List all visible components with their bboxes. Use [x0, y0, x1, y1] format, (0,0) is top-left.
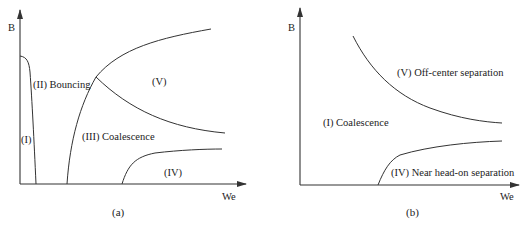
region-label: (IV) [164, 167, 183, 179]
panel-caption: (a) [112, 206, 125, 219]
region-label: (V) [152, 76, 167, 88]
panel-a: B We (I) (II) Bouncing (III) Coalescence… [8, 10, 246, 219]
boundary-i-ii [20, 56, 36, 184]
panel-caption: (b) [406, 206, 419, 219]
boundary-i-v [353, 36, 502, 123]
region-label: (II) Bouncing [33, 79, 91, 91]
x-axis-label: We [500, 191, 514, 202]
collision-regime-diagrams: B We (I) (II) Bouncing (III) Coalescence… [0, 0, 529, 232]
x-axis-label: We [222, 191, 236, 202]
boundary-ii-v [96, 29, 211, 77]
region-label: (I) Coalescence [323, 117, 389, 129]
region-label: (IV) Near head-on separation [391, 167, 515, 179]
region-label: (I) [21, 134, 32, 146]
y-axis-label: B [288, 22, 295, 33]
boundary-i-iv [378, 141, 502, 185]
region-label: (III) Coalescence [82, 131, 155, 143]
y-axis-label: B [8, 22, 15, 33]
panel-b: B We (I) Coalescence (V) Off-center sepa… [288, 8, 519, 219]
region-label: (V) Off-center separation [397, 67, 504, 79]
